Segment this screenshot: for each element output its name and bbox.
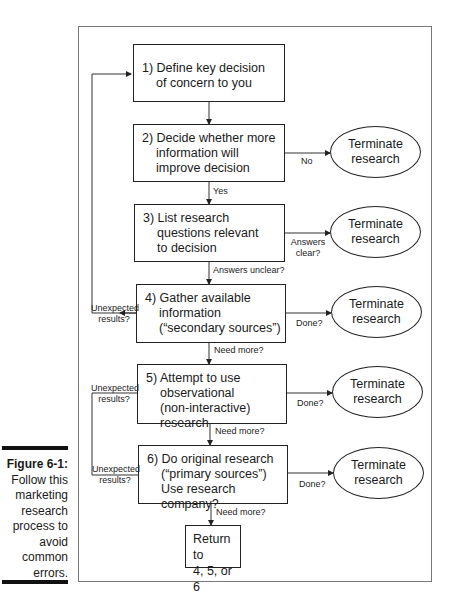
caption-line: marketing (15, 488, 68, 502)
edge-label-answers-unclear: Answers unclear? (213, 265, 285, 276)
edge-label-need-more-4: Need more? (214, 345, 264, 356)
edge-label-done-6: Done? (299, 479, 326, 490)
edge-label-answers-clear: Answers clear? (288, 237, 328, 259)
step-5-line-1: 5) Attempt to use (146, 371, 241, 385)
caption-rule-bottom (2, 580, 68, 584)
step-6-line-1: 6) Do original research (147, 452, 273, 466)
terminate-oval-4: Terminate research (331, 286, 422, 338)
step-4-line-2: information (145, 306, 285, 321)
terminate-label: research (332, 312, 421, 327)
step-4-line-1: 4) Gather available (145, 291, 251, 305)
step-2-box: 2) Decide whether more information will … (133, 124, 285, 182)
label-line: results? (98, 394, 130, 404)
step-4-line-3: (“secondary sources”) (145, 321, 285, 336)
terminate-oval-2: Terminate research (330, 126, 421, 178)
step-6-box: 6) Do original research (“primary source… (138, 445, 288, 504)
terminate-oval-6: Terminate research (333, 447, 424, 499)
step-4-box: 4) Gather available information (“second… (136, 284, 286, 343)
step-2-line-2: information will (142, 146, 284, 161)
terminate-label: Terminate (334, 458, 423, 473)
caption-line: common (22, 550, 68, 564)
caption-rule-top (2, 446, 68, 450)
label-line: Answers (291, 237, 326, 247)
step-3-line-1: 3) List research (143, 211, 229, 225)
edge-label-need-more-5: Need more? (215, 426, 265, 437)
step-5-line-2: observational (146, 386, 286, 401)
label-line: results? (98, 314, 130, 324)
step-5-box: 5) Attempt to use observational (non-int… (137, 364, 287, 424)
caption-line: process to (13, 519, 68, 533)
return-line-2: 4, 5, or 6 (193, 563, 240, 595)
edge-label-need-more-6: Need more? (216, 507, 266, 518)
edge-label-done-4: Done? (296, 318, 323, 329)
caption-line: Follow this (11, 473, 68, 487)
edge-label-no: No (301, 156, 313, 167)
figure-number: Figure 6-1: (7, 457, 68, 471)
terminate-label: Terminate (331, 217, 420, 232)
figure-caption: Figure 6-1: Follow this marketing resear… (2, 457, 68, 581)
terminate-label: Terminate (333, 377, 422, 392)
step-1-line-2: of concern to you (142, 76, 284, 91)
caption-line: errors. (33, 566, 68, 580)
terminate-oval-5: Terminate research (332, 366, 423, 418)
step-2-line-1: 2) Decide whether more (142, 131, 275, 145)
step-1-line-1: 1) Define key decision (142, 61, 265, 75)
terminate-oval-3: Terminate research (330, 206, 421, 258)
label-line: Unexpected (91, 303, 139, 313)
return-line-1: Return to (193, 531, 240, 563)
step-3-box: 3) List research questions relevant to d… (134, 204, 285, 262)
step-2-line-3: improve decision (142, 161, 284, 176)
return-box: Return to 4, 5, or 6 (185, 525, 241, 568)
step-6-line-2: (“primary sources”) (147, 467, 287, 482)
edge-label-yes: Yes (213, 186, 228, 197)
caption-line: research (21, 504, 68, 518)
terminate-label: Terminate (332, 297, 421, 312)
terminate-label: research (331, 152, 420, 167)
terminate-label: research (334, 473, 423, 488)
edge-label-unexpected-5: Unexpected results? (91, 383, 137, 405)
terminate-label: Terminate (331, 137, 420, 152)
step-1-box: 1) Define key decision of concern to you (133, 44, 285, 102)
edge-label-unexpected-4: Unexpected results? (91, 303, 137, 325)
label-line: Unexpected (92, 464, 140, 474)
terminate-label: research (333, 392, 422, 407)
edge-label-done-5: Done? (297, 398, 324, 409)
label-line: clear? (296, 248, 321, 258)
step-3-line-3: to decision (143, 241, 284, 256)
step-3-line-2: questions relevant (143, 226, 284, 241)
label-line: Unexpected (91, 383, 139, 393)
terminate-label: research (331, 232, 420, 247)
caption-line: avoid (39, 535, 68, 549)
edge-label-unexpected-6: Unexpected results? (92, 464, 138, 486)
label-line: results? (99, 475, 131, 485)
